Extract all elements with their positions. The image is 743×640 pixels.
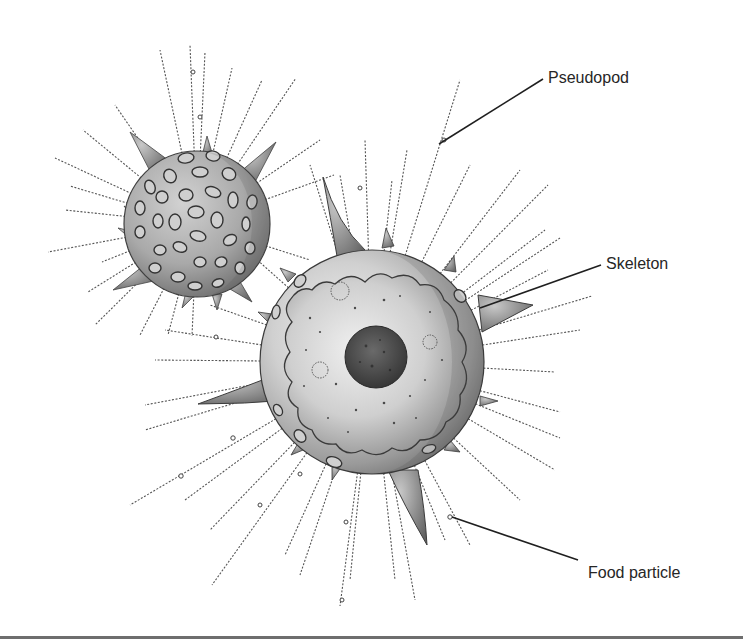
leader-line-skeleton — [480, 265, 601, 308]
nucleus — [345, 326, 407, 388]
label-food-particle: Food particle — [588, 565, 681, 581]
leader-line-food-particle — [452, 517, 578, 560]
small-radiolarian — [113, 132, 276, 310]
radiolarian-diagram — [0, 0, 743, 640]
label-pseudopod: Pseudopod — [548, 70, 629, 86]
leader-line-pseudopod — [439, 79, 543, 144]
bottom-rule — [0, 636, 743, 639]
label-skeleton: Skeleton — [606, 256, 668, 272]
